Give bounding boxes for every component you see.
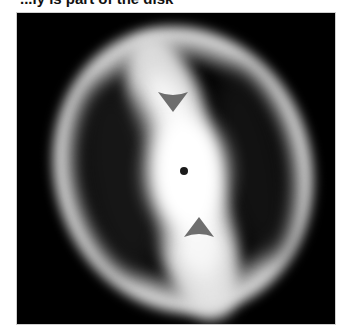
arrow-up-icon: [183, 216, 215, 240]
arrow-down-icon: [157, 89, 189, 113]
figure-caption: ...ly is part of the disk: [20, 0, 173, 8]
disk-glow: [17, 13, 335, 324]
center-dot: [180, 167, 188, 175]
disk-image: [17, 13, 335, 324]
